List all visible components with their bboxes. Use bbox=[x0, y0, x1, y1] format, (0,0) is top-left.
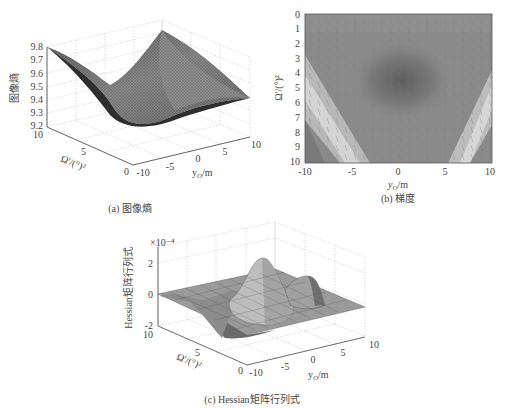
panel-a-z-label: 图像熵 bbox=[8, 73, 20, 103]
panel-b-x-ticks: -10 -5 0 5 10 bbox=[298, 166, 495, 177]
tick: 9.3 bbox=[31, 107, 44, 118]
panel-c-x-axis bbox=[247, 337, 365, 365]
tick: 0 bbox=[238, 365, 243, 376]
tick: 5 bbox=[295, 82, 300, 93]
tick: 10 bbox=[251, 139, 261, 150]
tick: 2 bbox=[148, 258, 153, 269]
panel-c-multiplier: ×10⁻⁴ bbox=[150, 237, 175, 248]
panel-c-z-label: Hessian矩阵行列式 bbox=[122, 247, 134, 329]
panel-a-x-axis bbox=[133, 137, 250, 165]
tick: -5 bbox=[166, 161, 174, 172]
tick: 5 bbox=[81, 146, 86, 157]
tick: 8 bbox=[295, 127, 300, 138]
panel-a: 9.8 9.7 9.6 9.5 9.4 9.3 9.2 图像熵 10 5 0 Ω… bbox=[8, 20, 261, 215]
tick: 0 bbox=[396, 166, 401, 177]
panel-c-surface bbox=[158, 258, 365, 339]
tick: 9.4 bbox=[31, 94, 44, 105]
panel-b: 0 1 2 3 4 5 6 7 8 9 10 Ω'/(°)² -10 -5 0 … bbox=[273, 9, 495, 205]
panel-a-z-ticks: 9.8 9.7 9.6 9.5 9.4 9.3 9.2 bbox=[31, 41, 44, 131]
panel-b-y-ticks: 0 1 2 3 4 5 6 7 8 9 10 bbox=[290, 9, 300, 167]
tick: -10 bbox=[298, 166, 311, 177]
tick: 5 bbox=[341, 347, 346, 358]
tick: 9.7 bbox=[31, 54, 44, 65]
tick: 9.5 bbox=[31, 81, 44, 92]
tick: 9.6 bbox=[31, 68, 44, 79]
figure-canvas: 9.8 9.7 9.6 9.5 9.4 9.3 9.2 图像熵 10 5 0 Ω… bbox=[0, 0, 505, 409]
tick: 10 bbox=[485, 166, 495, 177]
tick: 10 bbox=[33, 129, 43, 140]
tick: 7 bbox=[295, 112, 300, 123]
tick: 5 bbox=[195, 347, 200, 358]
tick: -10 bbox=[136, 167, 149, 178]
panel-c-x-ticks: -10 -5 0 5 10 bbox=[249, 339, 379, 378]
panel-c-caption: (c) Hessian矩阵行列式 bbox=[204, 393, 299, 406]
panel-b-caption: (b) 梯度 bbox=[381, 192, 415, 205]
tick: 4 bbox=[295, 67, 300, 78]
tick: 6 bbox=[295, 97, 300, 108]
tick: 5 bbox=[443, 166, 448, 177]
panel-c-z-ticks: 2 0 -2 bbox=[145, 258, 153, 331]
tick: 3 bbox=[295, 53, 300, 64]
tick: -5 bbox=[281, 361, 289, 372]
tick: 9.8 bbox=[31, 41, 44, 52]
tick: 0 bbox=[311, 354, 316, 365]
tick: 2 bbox=[295, 38, 300, 49]
tick: 10 bbox=[369, 339, 379, 350]
panel-c: ×10⁻⁴ 2 0 -2 Hessian矩阵行列式 10 5 0 Ω'/(°)²… bbox=[122, 222, 379, 406]
tick: 0 bbox=[295, 9, 300, 20]
panel-a-x-label: yO/m bbox=[192, 167, 213, 180]
panel-b-heatmap bbox=[305, 14, 492, 163]
panel-b-x-label: yO/m bbox=[387, 179, 408, 192]
tick: 10 bbox=[143, 329, 153, 340]
tick: 9 bbox=[295, 141, 300, 152]
tick: 1 bbox=[295, 23, 300, 34]
tick: 0 bbox=[196, 153, 201, 164]
tick: 5 bbox=[223, 146, 228, 157]
tick: -5 bbox=[348, 166, 356, 177]
panel-c-x-label: yO/m bbox=[308, 369, 329, 382]
tick: -10 bbox=[249, 367, 262, 378]
tick: 0 bbox=[148, 289, 153, 300]
panel-a-surface bbox=[47, 30, 250, 127]
tick: 0 bbox=[124, 166, 129, 177]
panel-a-caption: (a) 图像熵 bbox=[108, 202, 152, 215]
panel-b-y-label: Ω'/(°)² bbox=[273, 75, 285, 101]
